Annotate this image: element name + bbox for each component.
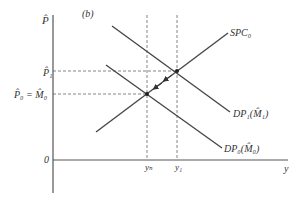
spc-label: SPC₀: [230, 27, 252, 38]
equilibrium-point-1: [175, 69, 179, 73]
tick-label-y1: y₁: [174, 162, 182, 172]
adjustment-arrow-2: [155, 83, 162, 88]
panel-label: (b): [82, 8, 94, 20]
dp0-curve: [106, 65, 222, 148]
tick-label-p1: P̂₁: [42, 66, 53, 78]
adjustment-arrow-1: [165, 75, 172, 80]
dp1-curve: [112, 26, 230, 112]
x-axis-label: y: [283, 163, 289, 174]
spc-curve: [96, 33, 228, 132]
dp1-label: DP₁(M̂₁): [232, 107, 269, 120]
dp0-label: DP₀(M̂₀): [223, 142, 260, 155]
y-axis-label: P̂: [41, 14, 49, 26]
diagram-canvas: P̂ (b) P̂₁ P̂₀ = M̂₀ 0 yₙ y₁ y SPC₀ DP₁(…: [0, 0, 305, 197]
equilibrium-point-0: [145, 92, 149, 96]
origin-label: 0: [44, 154, 49, 165]
tick-label-p0: P̂₀ = M̂₀: [13, 88, 48, 100]
tick-label-yn: yₙ: [144, 162, 153, 172]
